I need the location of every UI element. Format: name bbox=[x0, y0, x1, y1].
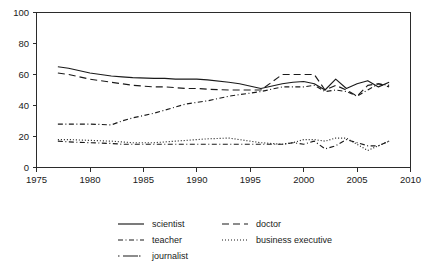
x-tick-label-1995: 1995 bbox=[240, 174, 261, 185]
series-line-doctor bbox=[58, 73, 389, 96]
series-layer bbox=[58, 67, 389, 151]
x-tick-label-1985: 1985 bbox=[133, 174, 154, 185]
x-tick-label-2010: 2010 bbox=[400, 174, 421, 185]
legend-label-business-executive: business executive bbox=[256, 235, 332, 245]
y-tick-label-100: 100 bbox=[13, 7, 29, 18]
legend-label-teacher: teacher bbox=[152, 235, 182, 245]
y-tick-label-80: 80 bbox=[18, 38, 29, 49]
y-tick-label-0: 0 bbox=[24, 162, 29, 173]
y-tick-label-60: 60 bbox=[18, 69, 29, 80]
y-tick-label-40: 40 bbox=[18, 100, 29, 111]
legend-label-scientist: scientist bbox=[152, 219, 185, 229]
x-tick-label-2000: 2000 bbox=[293, 174, 314, 185]
y-tick-label-20: 20 bbox=[18, 131, 29, 142]
legend-label-journalist: journalist bbox=[151, 251, 189, 261]
x-tick-label-1980: 1980 bbox=[79, 174, 100, 185]
chart-container: 0 20 40 60 80 100 1975 1980 1985 1990 19… bbox=[0, 0, 431, 267]
x-tick-label-1975: 1975 bbox=[26, 174, 47, 185]
y-axis-tick-labels: 0 20 40 60 80 100 bbox=[13, 7, 29, 173]
x-tick-label-2005: 2005 bbox=[347, 174, 368, 185]
legend-label-doctor: doctor bbox=[256, 219, 281, 229]
chart-legend: scientist doctor teacher business execut… bbox=[118, 219, 332, 261]
line-chart: 0 20 40 60 80 100 1975 1980 1985 1990 19… bbox=[0, 0, 431, 267]
x-tick-label-1990: 1990 bbox=[186, 174, 207, 185]
y-axis-ticks bbox=[33, 13, 37, 168]
series-line-journalist bbox=[58, 140, 389, 149]
x-axis-ticks bbox=[37, 168, 411, 172]
x-axis-tick-labels: 1975 1980 1985 1990 1995 2000 2005 2010 bbox=[26, 174, 421, 185]
